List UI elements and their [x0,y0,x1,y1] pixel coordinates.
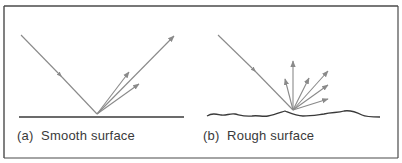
caption-smooth-surface: (a) Smooth surface [17,128,135,143]
panel-smooth-surface [19,35,184,117]
reflected-ray-a-3 [97,84,139,114]
specular-reflected-ray [97,36,174,114]
panel-rough-surface [207,35,380,117]
rough-surface-line [207,111,380,117]
caption-rough-surface: (b) Rough surface [203,128,314,143]
incident-ray-a [21,35,97,114]
diffuse-reflected-rays [285,61,328,110]
incident-ray-b [218,35,293,110]
reflected-ray-a-2 [97,72,129,114]
